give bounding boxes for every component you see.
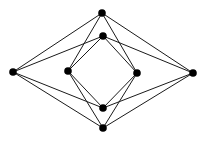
node-inner-left: [64, 67, 72, 75]
edge-bottom-left: [13, 72, 103, 128]
edge-inner-top-left: [13, 36, 103, 72]
edge-top-left: [13, 13, 102, 72]
edge-inner-bottom-left: [13, 72, 103, 108]
edge-inner-top-right: [103, 36, 193, 73]
edge-bottom-inner-right: [103, 73, 137, 128]
node-inner-top: [99, 32, 107, 40]
node-right: [189, 69, 197, 77]
edge-inner-top-inner-right: [103, 36, 137, 73]
edge-inner-bottom-inner-left: [68, 71, 103, 108]
graph-nodes: [9, 9, 197, 132]
edge-inner-bottom-inner-right: [103, 73, 137, 108]
node-inner-bottom: [99, 104, 107, 112]
edge-bottom-right: [103, 73, 193, 128]
node-bottom: [99, 124, 107, 132]
node-inner-right: [133, 69, 141, 77]
node-top: [98, 9, 106, 17]
edge-inner-bottom-right: [103, 73, 193, 108]
node-left: [9, 68, 17, 76]
graph-diagram: [0, 0, 203, 142]
edge-top-right: [102, 13, 193, 73]
edge-bottom-inner-left: [68, 71, 103, 128]
